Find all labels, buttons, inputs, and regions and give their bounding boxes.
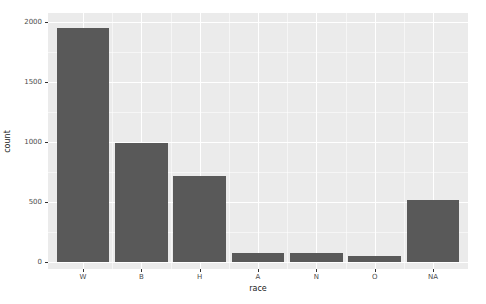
- bar-B: [115, 143, 168, 262]
- y-tick-label: 1500: [0, 78, 42, 86]
- x-tick-label: W: [63, 273, 103, 281]
- y-tick-label: 1000: [0, 138, 42, 146]
- y-tick-mark: [45, 82, 48, 83]
- gridline-minor-v: [404, 13, 405, 269]
- gridline-major-v: [375, 13, 376, 269]
- bar-H: [173, 176, 226, 262]
- x-tick-label: B: [121, 273, 161, 281]
- gridline-minor-v: [346, 13, 347, 269]
- x-tick-mark: [258, 269, 259, 272]
- x-axis-title: race: [48, 284, 468, 293]
- x-tick-label: NA: [413, 273, 453, 281]
- x-tick-mark: [141, 269, 142, 272]
- x-tick-label: N: [296, 273, 336, 281]
- x-tick-mark: [433, 269, 434, 272]
- bar-N: [290, 253, 343, 262]
- y-tick-label: 2000: [0, 18, 42, 26]
- gridline-minor-v: [112, 13, 113, 269]
- gridline-minor-v: [171, 13, 172, 269]
- bar-A: [232, 253, 285, 262]
- bar-NA: [407, 200, 460, 262]
- gridline-major-v: [258, 13, 259, 269]
- gridline-minor-v: [229, 13, 230, 269]
- gridline-major-v: [316, 13, 317, 269]
- y-tick-mark: [45, 22, 48, 23]
- y-tick-mark: [45, 262, 48, 263]
- gridline-minor-v: [287, 13, 288, 269]
- x-tick-mark: [83, 269, 84, 272]
- y-tick-label: 500: [0, 198, 42, 206]
- x-tick-mark: [200, 269, 201, 272]
- x-tick-label: H: [180, 273, 220, 281]
- bar-O: [348, 256, 401, 262]
- bar-chart-figure: count 0500100015002000WBHANONA race: [0, 0, 486, 304]
- x-tick-label: O: [355, 273, 395, 281]
- bar-W: [57, 28, 110, 262]
- y-tick-mark: [45, 142, 48, 143]
- x-tick-label: A: [238, 273, 278, 281]
- x-tick-mark: [375, 269, 376, 272]
- y-tick-mark: [45, 202, 48, 203]
- y-tick-label: 0: [0, 258, 42, 266]
- x-tick-mark: [316, 269, 317, 272]
- plot-panel: [48, 13, 468, 269]
